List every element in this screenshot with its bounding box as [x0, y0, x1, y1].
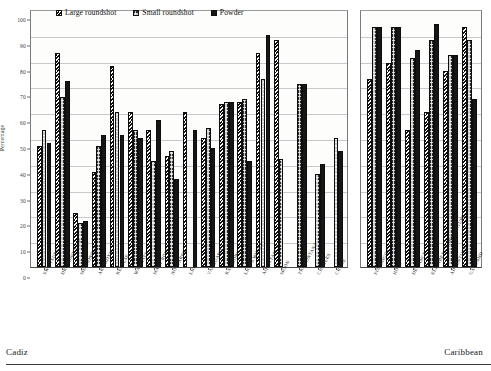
bar-powder [101, 135, 106, 267]
bar-small [391, 27, 396, 267]
bar-group-cadiz-10 [217, 11, 235, 267]
bar-powder [193, 130, 198, 267]
bar-small [467, 40, 472, 267]
bar-group-cadiz-11 [236, 11, 254, 267]
bar-group-cadiz-4 [108, 11, 126, 267]
legend-item-large: Large roundshot [56, 8, 116, 17]
bar-powder [377, 27, 382, 267]
chart-root: lll lll llllll lll l Percentage 01020304… [0, 0, 491, 371]
region-label-cadiz: Cadiz [6, 347, 28, 357]
bar-group-cadiz-2 [71, 11, 89, 267]
bar-group-cadiz-5 [126, 11, 144, 267]
bar-powder [65, 81, 70, 267]
y-tick-label-40: 40 [20, 172, 26, 178]
bar-small [279, 159, 284, 267]
y-tick-label-80: 80 [20, 69, 26, 75]
bar-group-caribbean-3 [422, 11, 441, 267]
footer-rule [6, 364, 491, 365]
bar-powder [302, 84, 307, 267]
legend-item-small: Small roundshot [133, 8, 194, 17]
bar-group-cadiz-7 [163, 11, 181, 267]
y-tick-label-20: 20 [20, 223, 26, 229]
legend-label-powder: Powder [220, 8, 244, 17]
chart-legend: Large roundshotSmall roundshotPowder [56, 8, 244, 17]
bar-group-cadiz-6 [144, 11, 162, 267]
y-tick-label-10: 10 [20, 249, 26, 255]
legend-label-small: Small roundshot [142, 8, 194, 17]
bar-powder [396, 27, 401, 267]
bar-group-cadiz-1 [53, 11, 71, 267]
bar-group-cadiz-14 [290, 11, 308, 267]
bar-group-cadiz-3 [90, 11, 108, 267]
legend-item-powder: Powder [211, 8, 244, 17]
bar-small [410, 58, 415, 267]
bar-group-cadiz-13 [272, 11, 290, 267]
y-tick-label-70: 70 [20, 94, 26, 100]
legend-swatch-large-icon [56, 10, 62, 16]
bar-group-cadiz-12 [254, 11, 272, 267]
bar-powder [320, 164, 325, 267]
bar-powder [156, 120, 161, 267]
y-tick-mark [27, 278, 30, 279]
bar-group-caribbean-1 [384, 11, 403, 267]
panel-cadiz [30, 10, 348, 268]
region-label-caribbean: Caribbean [444, 347, 483, 357]
caption-fragment: lll lll llllll lll l [316, 0, 362, 1]
bar-group-cadiz-9 [199, 11, 217, 267]
bar-group-cadiz-16 [327, 11, 345, 267]
y-tick-label-30: 30 [20, 198, 26, 204]
bar-group-cadiz-15 [309, 11, 327, 267]
bar-powder [472, 99, 477, 267]
y-tick-label-50: 50 [20, 146, 26, 152]
y-tick-label-90: 90 [20, 43, 26, 49]
bar-powder [338, 151, 343, 267]
panel-caribbean [360, 10, 482, 268]
y-tick-label-100: 100 [17, 17, 26, 23]
bar-group-cadiz-0 [35, 11, 53, 267]
bar-powder [47, 143, 52, 267]
bar-group-caribbean-5 [460, 11, 479, 267]
bar-powder [229, 102, 234, 267]
legend-swatch-small-icon [133, 10, 139, 16]
bar-small [372, 27, 377, 267]
bar-group-cadiz-8 [181, 11, 199, 267]
bar-powder [138, 138, 143, 267]
bar-powder [174, 179, 179, 267]
bar-powder [211, 148, 216, 267]
legend-swatch-powder-icon [211, 10, 217, 16]
y-tick-label-0: 0 [23, 275, 26, 281]
bar-group-caribbean-2 [403, 11, 422, 267]
bar-powder [434, 24, 439, 267]
bar-large [183, 112, 188, 267]
legend-label-large: Large roundshot [65, 8, 116, 17]
plot-area [30, 10, 482, 268]
bar-powder [266, 35, 271, 267]
bar-small [429, 40, 434, 267]
bar-powder [415, 50, 420, 267]
bar-powder [120, 135, 125, 267]
y-axis: Percentage 0102030405060708090100 [0, 10, 30, 268]
bar-powder [247, 161, 252, 267]
y-axis-title: Percentage [0, 103, 5, 173]
bar-group-caribbean-0 [365, 11, 384, 267]
y-tick-label-60: 60 [20, 120, 26, 126]
